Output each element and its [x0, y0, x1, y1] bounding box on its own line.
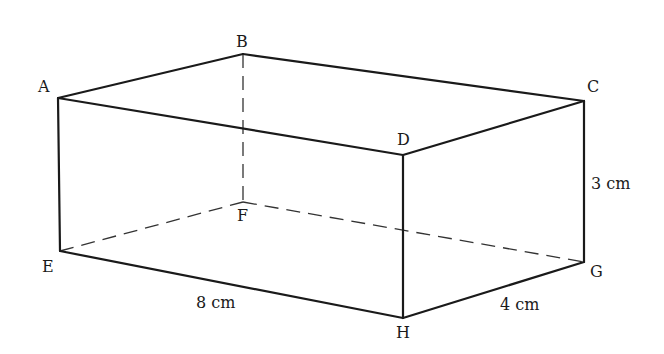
dimension-label-length: 8 cm [196, 293, 235, 312]
edge-cd [403, 101, 584, 155]
vertex-label-e: E [42, 257, 54, 276]
vertex-label-g: G [590, 262, 603, 281]
edge-da [58, 98, 403, 155]
dimension-label-height: 3 cm [591, 174, 630, 193]
edge-hg [403, 262, 584, 318]
vertex-label-b: B [236, 32, 248, 51]
edge-fg [243, 202, 584, 262]
vertex-label-f: F [237, 206, 248, 225]
edge-ae [58, 98, 60, 251]
vertex-label-h: H [396, 323, 410, 342]
vertex-label-c: C [587, 77, 599, 96]
cuboid-diagram: A B C D E F G H 3 cm 8 cm 4 cm [0, 0, 664, 354]
dimension-label-width: 4 cm [500, 295, 539, 314]
vertex-label-d: D [397, 130, 410, 149]
vertex-label-a: A [37, 77, 50, 96]
edge-ef [60, 202, 243, 251]
edge-bc [243, 54, 584, 101]
edge-ab [58, 54, 243, 98]
